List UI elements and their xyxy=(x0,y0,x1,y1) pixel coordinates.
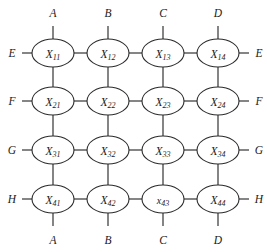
right-port-label-g: G xyxy=(255,144,264,156)
node-x12[interactable]: X12 xyxy=(87,39,129,67)
top-port-label-a: A xyxy=(48,7,57,19)
node-x22[interactable]: X22 xyxy=(87,87,129,115)
bottom-port-label-a: A xyxy=(48,234,57,246)
node-x24[interactable]: X24 xyxy=(197,87,239,115)
node-x13-subscript: 13 xyxy=(163,52,171,61)
node-x42-subscript: 42 xyxy=(108,198,116,207)
node-x31[interactable]: X31 xyxy=(32,136,74,164)
node-x43[interactable]: x43 xyxy=(142,185,184,213)
top-port-label-d: D xyxy=(213,7,223,19)
bottom-port-label-b: B xyxy=(104,234,111,246)
node-x14-subscript: 14 xyxy=(218,52,226,61)
node-x41[interactable]: X41 xyxy=(32,185,74,213)
node-x34[interactable]: X34 xyxy=(197,136,239,164)
left-port-label-g: G xyxy=(8,144,17,156)
node-x32[interactable]: X32 xyxy=(87,136,129,164)
node-x32-subscript: 32 xyxy=(107,149,116,158)
right-port-label-h: H xyxy=(254,193,264,205)
node-x11[interactable]: X11 xyxy=(32,39,74,67)
node-x22-subscript: 22 xyxy=(108,100,116,109)
diagram-container: X11X12X13X14X21X22X23X24X31X32X33X34X41X… xyxy=(0,0,267,252)
node-x44-subscript: 44 xyxy=(218,198,226,207)
node-x44[interactable]: X44 xyxy=(197,185,239,213)
node-x42[interactable]: X42 xyxy=(87,185,129,213)
node-x12-subscript: 12 xyxy=(108,52,116,61)
nodes-layer: X11X12X13X14X21X22X23X24X31X32X33X34X41X… xyxy=(32,39,239,213)
node-x33[interactable]: X33 xyxy=(142,136,184,164)
node-x21-subscript: 21 xyxy=(53,100,61,109)
left-port-label-e: E xyxy=(7,47,15,59)
grid-network-diagram: X11X12X13X14X21X22X23X24X31X32X33X34X41X… xyxy=(0,0,267,252)
edges-layer xyxy=(53,53,218,199)
node-x31-subscript: 31 xyxy=(52,149,61,158)
node-x33-subscript: 33 xyxy=(162,149,171,158)
bottom-port-label-d: D xyxy=(213,234,223,246)
right-port-label-e: E xyxy=(254,47,262,59)
top-port-label-b: B xyxy=(104,7,111,19)
node-x23-subscript: 23 xyxy=(163,100,171,109)
node-x24-subscript: 24 xyxy=(218,100,226,109)
top-port-label-c: C xyxy=(159,7,167,19)
node-x23[interactable]: X23 xyxy=(142,87,184,115)
node-x34-subscript: 34 xyxy=(217,149,226,158)
right-port-label-f: F xyxy=(254,95,263,107)
node-x13[interactable]: X13 xyxy=(142,39,184,67)
node-x43-subscript: 43 xyxy=(161,198,169,207)
left-port-label-f: F xyxy=(7,95,16,107)
node-x11-subscript: 11 xyxy=(53,52,60,61)
node-x14[interactable]: X14 xyxy=(197,39,239,67)
bottom-port-label-c: C xyxy=(159,234,167,246)
node-x21[interactable]: X21 xyxy=(32,87,74,115)
node-x41-subscript: 41 xyxy=(53,198,61,207)
left-port-label-h: H xyxy=(7,193,17,205)
